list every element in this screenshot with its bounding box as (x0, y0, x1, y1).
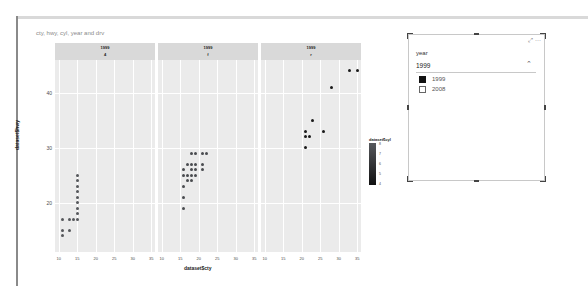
more-options-icon[interactable]: ⋯ (535, 37, 541, 43)
data-point[interactable] (308, 135, 311, 138)
y-tick-label: 30 (46, 145, 52, 151)
data-point[interactable] (190, 174, 193, 177)
data-point[interactable] (182, 207, 185, 210)
x-tick-label: 10 (56, 256, 60, 261)
data-point[interactable] (76, 174, 79, 177)
gridline (55, 93, 155, 94)
data-point[interactable] (201, 163, 204, 166)
data-point[interactable] (186, 174, 189, 177)
year-slicer[interactable]: ⤢ ⋯ year 1999 ⌃ 1999 2008 (408, 34, 545, 181)
data-point[interactable] (194, 152, 197, 155)
data-point[interactable] (348, 69, 351, 72)
y-tick-label: 40 (46, 90, 52, 96)
gridline (96, 60, 97, 252)
data-point[interactable] (68, 218, 71, 221)
data-point[interactable] (190, 152, 193, 155)
gridline (217, 60, 218, 252)
data-point[interactable] (76, 185, 79, 188)
data-point[interactable] (190, 168, 193, 171)
x-tick-label: 15 (75, 256, 79, 261)
gridline (55, 148, 155, 149)
slicer-item-2008[interactable]: 2008 (419, 86, 445, 94)
data-point[interactable] (194, 163, 197, 166)
checkbox-checked-icon[interactable] (419, 76, 426, 83)
data-point[interactable] (182, 185, 185, 188)
resize-handle-top-left[interactable] (407, 33, 413, 39)
y-tick-label: 20 (46, 200, 52, 206)
data-point[interactable] (76, 212, 79, 215)
gridline (158, 148, 258, 149)
checkbox-unchecked-icon[interactable] (419, 86, 426, 93)
facet-strip: 19994 (55, 43, 155, 60)
data-point[interactable] (182, 174, 185, 177)
legend-tick-label: 7 (379, 152, 381, 156)
gridline (151, 60, 152, 252)
resize-handle-top[interactable] (474, 33, 479, 35)
data-point[interactable] (304, 135, 307, 138)
data-point[interactable] (76, 218, 79, 221)
data-point[interactable] (322, 130, 325, 133)
x-tick-label: 30 (234, 256, 238, 261)
data-point[interactable] (61, 234, 64, 237)
x-tick-label: 10 (159, 256, 163, 261)
x-axis-label: dataset$cty (184, 265, 212, 271)
data-point[interactable] (190, 163, 193, 166)
data-point[interactable] (72, 218, 75, 221)
data-point[interactable] (194, 168, 197, 171)
focus-mode-icon[interactable]: ⤢ (528, 37, 533, 43)
facet-panel-4: 19994 (55, 43, 155, 252)
data-point[interactable] (61, 218, 64, 221)
data-point[interactable] (182, 196, 185, 199)
data-point[interactable] (304, 130, 307, 133)
gridline (261, 148, 361, 149)
plot-area (158, 60, 258, 252)
slicer-dropdown[interactable]: 1999 ⌃ (416, 60, 536, 73)
gridline (180, 60, 181, 252)
legend-tick-label: 6 (379, 162, 381, 166)
facet-drv-label: r (261, 52, 361, 57)
data-point[interactable] (201, 168, 204, 171)
chevron-up-icon[interactable]: ⌃ (526, 60, 532, 68)
data-point[interactable] (205, 152, 208, 155)
data-point[interactable] (76, 201, 79, 204)
resize-handle-bottom[interactable] (474, 180, 479, 182)
gridline (357, 60, 358, 252)
x-tick-label: 20 (197, 256, 201, 261)
data-point[interactable] (76, 179, 79, 182)
facet-panel-r: 1999r (261, 43, 361, 252)
data-point[interactable] (68, 229, 71, 232)
facet-panel-f: 1999f (158, 43, 258, 252)
data-point[interactable] (190, 179, 193, 182)
data-point[interactable] (186, 179, 189, 182)
data-point[interactable] (304, 146, 307, 149)
facet-year-label: 1999 (55, 45, 155, 50)
gridline (158, 203, 258, 204)
legend-tick-label: 4 (379, 182, 381, 186)
x-tick-label: 30 (131, 256, 135, 261)
faceted-scatter-chart[interactable]: 101520253035199941015202530351999f101520… (0, 0, 400, 292)
data-point[interactable] (201, 152, 204, 155)
facet-year-label: 1999 (158, 45, 258, 50)
data-point[interactable] (186, 163, 189, 166)
gridline (236, 60, 237, 252)
data-point[interactable] (194, 174, 197, 177)
resize-handle-left[interactable] (407, 105, 409, 110)
facet-year-label: 1999 (261, 45, 361, 50)
gridline (320, 60, 321, 252)
data-point[interactable] (182, 168, 185, 171)
slicer-item-1999[interactable]: 1999 (419, 76, 445, 84)
x-tick-label: 10 (262, 256, 266, 261)
resize-handle-bottom-right[interactable] (540, 176, 546, 182)
data-point[interactable] (76, 190, 79, 193)
y-axis-label: dataset$hwy (14, 120, 20, 150)
resize-handle-bottom-left[interactable] (407, 176, 413, 182)
data-point[interactable] (76, 207, 79, 210)
data-point[interactable] (311, 119, 314, 122)
resize-handle-right[interactable] (544, 105, 546, 110)
x-tick-label: 25 (112, 256, 116, 261)
slicer-selected-value: 1999 (416, 62, 430, 69)
data-point[interactable] (330, 86, 333, 89)
data-point[interactable] (61, 229, 64, 232)
data-point[interactable] (76, 196, 79, 199)
gridline (302, 60, 303, 252)
